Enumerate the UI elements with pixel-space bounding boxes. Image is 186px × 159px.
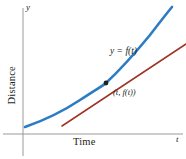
tangent-point-marker [104,81,109,86]
curve-equation-label: y = f(t) [110,47,137,57]
x-axis-variable-label: t [176,135,179,144]
x-axis-label: Time [73,137,96,148]
y-axis-variable-label: y [26,3,30,12]
distance-time-graph-figure: Distance Time y t y = f(t) (t, f(t)) [0,0,186,159]
tangent-point-label: (t, f(t)) [113,88,136,97]
y-axis-label: Distance [7,57,18,113]
